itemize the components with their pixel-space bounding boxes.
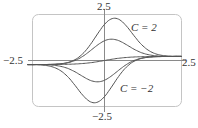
x-right-tick-label: 2.5 (182, 57, 196, 68)
c-top-label: C = 2 (131, 22, 157, 33)
y-bottom-tick-label: −2.5 (92, 111, 112, 122)
plot-area (0, 0, 198, 128)
c-bottom-label: C = −2 (120, 83, 153, 94)
y-top-tick-label: 2.5 (97, 1, 111, 12)
x-left-tick-label: −2.5 (3, 55, 23, 66)
